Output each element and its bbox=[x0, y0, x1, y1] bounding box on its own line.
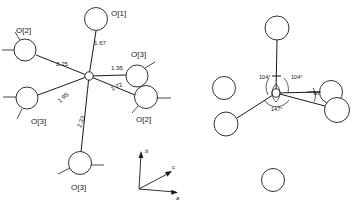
axis-c-label: c bbox=[172, 164, 175, 170]
stub-o2-rightlow-b bbox=[132, 106, 138, 113]
atom-o3-lowerleft bbox=[16, 87, 38, 109]
label-o2-rightlow: O[2] bbox=[136, 115, 151, 124]
ratom-lowerleft bbox=[214, 112, 238, 136]
atom-o1-top bbox=[85, 8, 108, 31]
distance-label-o3-right: 1.95 bbox=[111, 64, 124, 71]
bond-center-o3-bottom bbox=[81, 76, 89, 152]
axis-a-line bbox=[139, 189, 175, 192]
axis-b-arrowhead bbox=[139, 151, 144, 158]
atom-o2-rightlow bbox=[135, 86, 158, 109]
label-o3-right: O[3] bbox=[131, 50, 146, 59]
stub-o3-right-a bbox=[145, 62, 155, 68]
left-panel-bonds bbox=[36, 31, 135, 152]
label-o3-bottom: O[3] bbox=[71, 183, 86, 192]
angle-arc-left bbox=[266, 78, 269, 95]
bond-center-o3-right bbox=[89, 75, 126, 76]
distance-label-o2-upperleft: 2.25 bbox=[56, 60, 69, 67]
angle-label-right: 104° bbox=[291, 74, 303, 80]
right-panel-atoms bbox=[213, 16, 350, 192]
axis-c-line bbox=[139, 173, 169, 189]
angle-arc-right bbox=[284, 78, 288, 93]
label-o2-upperleft: O[2] bbox=[16, 26, 31, 35]
axis-a-label: a bbox=[176, 195, 180, 201]
ratom-bottom bbox=[262, 169, 285, 192]
structure-svg: O[1] O[2] O[3] O[3] O[3] O[2] 1.67 2.25 … bbox=[0, 0, 352, 204]
ratom-rightlower bbox=[325, 98, 350, 123]
label-o3-lowerleft: O[3] bbox=[31, 117, 46, 126]
distance-label-o2-rightlow: 1.72 bbox=[110, 80, 124, 92]
axis-c-arrowhead bbox=[165, 171, 172, 177]
label-o1-top: O[1] bbox=[111, 9, 126, 18]
angle-label-far-right: 98° bbox=[313, 90, 321, 96]
angle-label-left: 104° bbox=[259, 74, 271, 80]
atom-o3-bottom bbox=[69, 152, 92, 175]
axis-b-line bbox=[139, 154, 141, 189]
ratom-upperleft bbox=[213, 77, 236, 100]
ratom-center-metal bbox=[272, 89, 280, 97]
angle-label-bottom: 147° bbox=[271, 106, 283, 112]
atom-o3-right bbox=[126, 65, 148, 87]
stub-o3-lowerleft-b bbox=[17, 109, 22, 119]
atom-center-metal bbox=[85, 72, 93, 80]
left-panel-atoms bbox=[14, 8, 158, 175]
bond-center-o1 bbox=[89, 31, 96, 76]
distance-label-o1: 1.67 bbox=[94, 39, 107, 46]
axis-b-label: b bbox=[145, 148, 149, 154]
distance-label-o3-lowerleft: 1.95 bbox=[56, 90, 70, 104]
atom-o2-upperleft bbox=[14, 39, 36, 61]
figure-canvas: O[1] O[2] O[3] O[3] O[3] O[2] 1.67 2.25 … bbox=[0, 0, 352, 204]
stub-o3-bottom-b bbox=[58, 168, 70, 174]
ratom-top bbox=[265, 16, 289, 40]
axis-indicator: b c a bbox=[139, 148, 180, 201]
left-panel-distance-labels: 1.67 2.25 1.95 2.33 1.95 1.72 bbox=[56, 39, 124, 128]
